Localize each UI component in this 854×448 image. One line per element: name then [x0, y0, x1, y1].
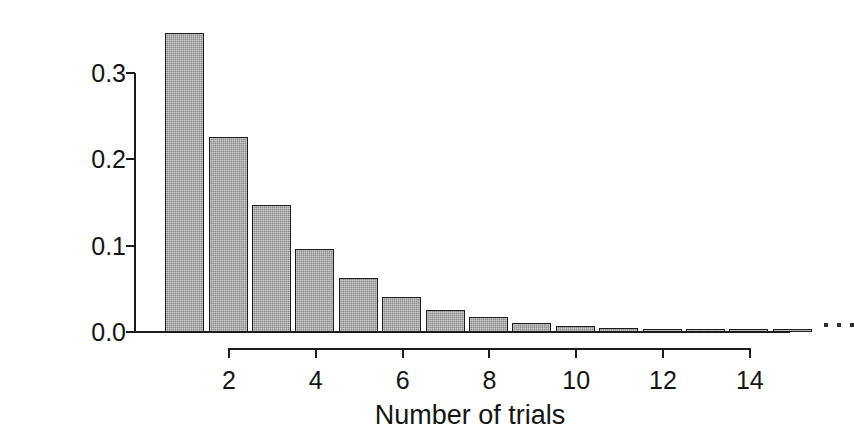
y-axis-line — [134, 73, 136, 333]
ellipsis-dot — [824, 323, 828, 327]
x-axis-tick — [749, 348, 751, 358]
y-axis-tick — [126, 158, 135, 160]
bar — [295, 249, 334, 332]
x-axis-title: Number of trials — [150, 400, 790, 431]
bar — [773, 329, 812, 332]
ellipsis-dot — [850, 323, 854, 327]
y-axis-tick-label: 0.3 — [91, 59, 126, 88]
x-axis-tick — [402, 348, 404, 358]
x-axis-tick-label: 10 — [562, 366, 590, 395]
bar — [339, 278, 378, 332]
bar — [165, 33, 204, 332]
bar — [209, 137, 248, 332]
x-axis-tick-label: 2 — [222, 366, 236, 395]
x-axis-tick-label: 6 — [396, 366, 410, 395]
y-axis-tick-label: 0.0 — [91, 318, 126, 347]
bar — [382, 297, 421, 332]
bar — [469, 317, 508, 332]
bar — [556, 326, 595, 332]
y-axis-tick — [126, 331, 135, 333]
x-axis-tick — [575, 348, 577, 358]
bar — [686, 329, 725, 332]
bar — [426, 310, 465, 332]
x-axis-tick-label: 8 — [482, 366, 496, 395]
bar — [643, 329, 682, 332]
x-axis-tick — [488, 348, 490, 358]
ellipsis-dot — [837, 323, 841, 327]
y-axis-tick — [126, 245, 135, 247]
y-axis-tick-label: 0.2 — [91, 145, 126, 174]
bar — [512, 323, 551, 332]
x-axis-tick — [662, 348, 664, 358]
y-axis-tick — [126, 72, 135, 74]
x-axis-tick — [315, 348, 317, 358]
y-axis-tick-label: 0.1 — [91, 231, 126, 260]
bar — [729, 329, 768, 332]
x-axis-tick-label: 14 — [736, 366, 764, 395]
x-axis-tick-label: 12 — [649, 366, 677, 395]
x-axis-tick-label: 4 — [309, 366, 323, 395]
bar — [599, 328, 638, 332]
bar — [252, 205, 291, 332]
x-axis-tick — [228, 348, 230, 358]
